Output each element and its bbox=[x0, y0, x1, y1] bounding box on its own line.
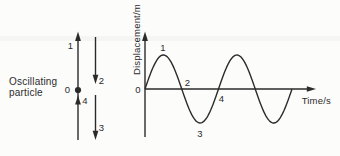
y-axis-label: Displacement/m bbox=[131, 4, 142, 75]
x-axis-label: Time/s bbox=[302, 95, 331, 106]
stage-label-3: 3 bbox=[99, 122, 104, 133]
physics-figure: 1 0 4 2 3 Oscillating particle Displacem… bbox=[0, 0, 340, 156]
curve-point-label-4: 4 bbox=[219, 93, 224, 104]
curve-point-label-3: 3 bbox=[197, 128, 202, 139]
caption-line-1: Oscillating bbox=[9, 76, 57, 87]
particle-dot bbox=[75, 87, 81, 93]
caption-line-2: particle bbox=[9, 87, 43, 98]
origin-label: 0 bbox=[135, 84, 140, 95]
downward-motion-arrow-lower bbox=[93, 95, 99, 140]
upward-motion-arrow bbox=[75, 32, 81, 141]
down-arrowhead-upper-icon bbox=[93, 75, 99, 84]
downward-motion-arrow-upper bbox=[93, 37, 99, 84]
stage-label-1: 1 bbox=[68, 40, 73, 51]
figure-canvas: 1 0 4 2 3 Oscillating particle Displacem… bbox=[0, 0, 340, 156]
equilibrium-label: 0 bbox=[65, 84, 70, 95]
stage-label-4: 4 bbox=[82, 95, 87, 106]
down-arrowhead-lower-icon bbox=[93, 131, 99, 140]
x-axis-arrowhead-icon bbox=[307, 86, 316, 92]
x-axis bbox=[145, 86, 316, 92]
up-arrowhead-mid-icon bbox=[75, 96, 81, 105]
stage-label-2: 2 bbox=[99, 75, 104, 86]
oscillating-particle-diagram: 1 0 4 2 3 Oscillating particle bbox=[9, 32, 104, 141]
displacement-time-graph: Displacement/m Time/s 0 1 2 3 4 bbox=[131, 4, 331, 138]
curve-point-label-2: 2 bbox=[185, 77, 190, 88]
scan-artifact-band bbox=[0, 36, 340, 41]
curve-point-label-1: 1 bbox=[160, 42, 165, 53]
